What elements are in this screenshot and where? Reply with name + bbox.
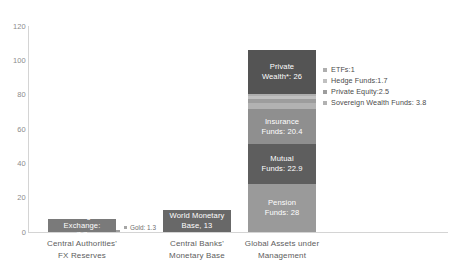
bar-segment-pension-funds[interactable]: Pension Funds: 28: [248, 184, 316, 232]
bar-fx-reserves[interactable]: Foreign Exchange: 7.7: [48, 219, 116, 232]
bar-segment-world-monetary-base-label: World Monetary Base, 13: [168, 211, 227, 230]
bar-segment-mutual-funds-label: Mutual Funds: 22.9: [259, 154, 304, 173]
x-category-label-fx-reserves: Central Authorities' FX Reserves: [28, 238, 136, 261]
y-tick-60: 60: [2, 126, 26, 134]
gold-bullet-icon: [124, 226, 127, 229]
chart-legend: ETFs:1 Hedge Funds:1.7 Private Equity:2.…: [323, 64, 426, 108]
chart-container: 120 100 80 60 40 20 0 Foreign Exchange: …: [0, 0, 457, 273]
legend-label-private-equity: Private Equity:2.5: [331, 88, 389, 95]
gold-bar-segment[interactable]: [116, 230, 120, 232]
bar-segment-foreign-exchange-label: Foreign Exchange: 7.7: [48, 211, 116, 240]
legend-swatch-icon-private-equity: [323, 90, 327, 94]
y-tick-0: 0: [2, 229, 26, 237]
legend-item-etfs[interactable]: ETFs:1: [323, 64, 426, 75]
bar-segment-insurance-funds-label: Insurance Funds: 20.4: [259, 117, 304, 136]
x-category-label-global-aum: Global Assets under Management: [228, 238, 336, 261]
bar-global-aum[interactable]: Private Wealth*: 26 Insurance Funds: 20.…: [248, 50, 316, 233]
bar-segment-private-wealth-label: Private Wealth*: 26: [260, 62, 304, 81]
legend-label-etfs: ETFs:1: [331, 66, 355, 73]
legend-item-sovereign-wealth-funds[interactable]: Sovereign Wealth Funds: 3.8: [323, 97, 426, 108]
bar-segment-world-monetary-base[interactable]: World Monetary Base, 13: [163, 210, 231, 232]
y-tick-120: 120: [2, 23, 26, 31]
gold-callout-label: Gold: 1.3: [130, 225, 156, 231]
bar-segment-private-wealth[interactable]: Private Wealth*: 26: [248, 50, 316, 95]
y-tick-80: 80: [2, 91, 26, 99]
bar-segment-insurance-funds[interactable]: Insurance Funds: 20.4: [248, 109, 316, 144]
legend-swatch-icon-etfs: [323, 68, 327, 72]
y-axis-line: [28, 26, 29, 232]
bar-segment-foreign-exchange[interactable]: Foreign Exchange: 7.7: [48, 219, 116, 232]
plot-area: 120 100 80 60 40 20 0 Foreign Exchange: …: [0, 0, 457, 273]
legend-swatch-icon-sovereign-wealth-funds: [323, 101, 327, 105]
bar-segment-pension-funds-label: Pension Funds: 28: [263, 198, 302, 217]
legend-swatch-icon-hedge-funds: [323, 79, 327, 83]
y-tick-40: 40: [2, 160, 26, 168]
legend-item-hedge-funds[interactable]: Hedge Funds:1.7: [323, 75, 426, 86]
legend-label-hedge-funds: Hedge Funds:1.7: [331, 77, 388, 84]
bar-monetary-base[interactable]: World Monetary Base, 13: [163, 210, 231, 232]
bar-segment-mutual-funds[interactable]: Mutual Funds: 22.9: [248, 144, 316, 183]
y-tick-20: 20: [2, 194, 26, 202]
y-tick-100: 100: [2, 57, 26, 65]
legend-item-private-equity[interactable]: Private Equity:2.5: [323, 86, 426, 97]
legend-label-sovereign-wealth-funds: Sovereign Wealth Funds: 3.8: [331, 99, 426, 106]
